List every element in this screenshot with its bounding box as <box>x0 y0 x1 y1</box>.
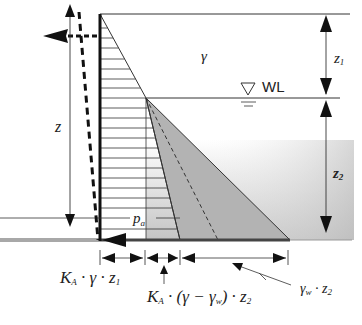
pa-label: pa <box>132 210 146 228</box>
dim1-arrow-left-icon <box>102 253 115 263</box>
dim3-leader-arrow-icon <box>232 263 243 271</box>
displacement-arrow-icon <box>43 29 68 43</box>
z1-arrow-down-icon <box>320 78 332 95</box>
water-level-triangle-icon <box>241 83 255 95</box>
dim1-arrow-right-icon <box>130 253 143 263</box>
dim2-arrow-right-icon <box>168 253 178 263</box>
z1-arrow-up-icon <box>320 15 332 32</box>
dim3-label: γw · z2 <box>300 281 333 297</box>
dim2-arrow-left-icon <box>147 253 158 263</box>
dim2-label: KA · (γ − γw) · z2 <box>146 287 252 306</box>
z-arrow-up-icon <box>65 4 75 17</box>
z2-arrow-up-icon <box>320 100 332 117</box>
water-level-symbol <box>241 83 256 106</box>
earth-pressure-diagram: pa z γ WL z1 z2 <box>0 0 362 325</box>
gamma-label: γ <box>201 48 208 64</box>
z-label: z <box>54 118 62 135</box>
dim3-arrow-right-icon <box>273 253 286 263</box>
dim3-leader-line-2 <box>239 266 291 285</box>
dim1-label: KA · γ · z1 <box>59 268 120 287</box>
base-strip <box>100 239 290 242</box>
water-level-label: WL <box>262 78 285 95</box>
dim2-leader-arrow-icon <box>160 265 168 274</box>
z-arrow-down-icon <box>65 214 75 227</box>
pa-arrow-icon <box>102 233 126 247</box>
displaced-wall-dashed-line <box>79 12 98 240</box>
dim3-arrow-left-icon <box>182 253 195 263</box>
z1-label: z1 <box>333 50 344 67</box>
